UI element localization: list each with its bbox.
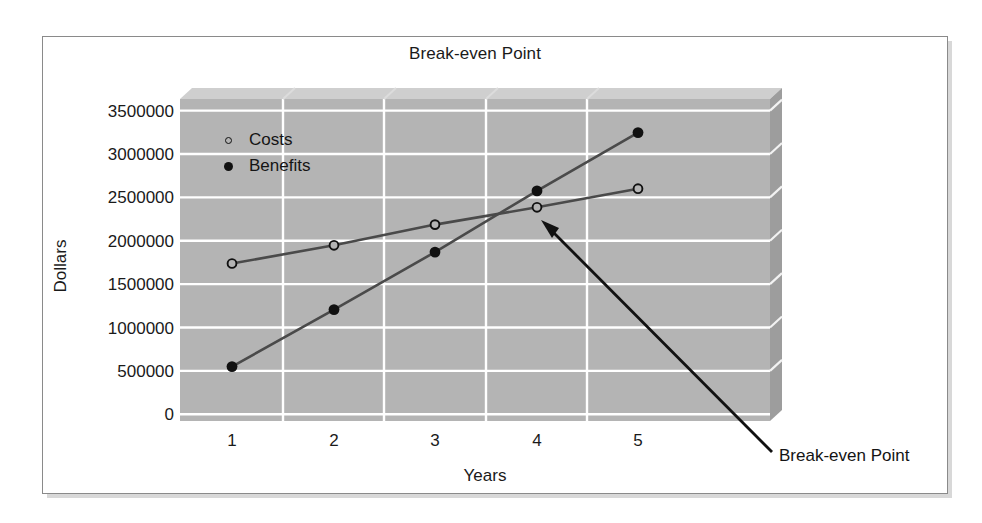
legend-entry-benefits: Benefits — [218, 153, 310, 179]
legend-label-benefits: Benefits — [249, 156, 310, 176]
y-axis-title: Dollars — [51, 196, 71, 336]
filled-circle-icon — [218, 162, 238, 171]
x-tick-label: 2 — [304, 431, 364, 451]
x-tick-label: 5 — [608, 431, 668, 451]
hollow-circle-icon — [218, 137, 238, 144]
x-tick-label: 1 — [202, 431, 262, 451]
x-tick-label: 4 — [507, 431, 567, 451]
legend-entry-costs: Costs — [218, 127, 310, 153]
legend-label-costs: Costs — [249, 130, 292, 150]
chart-legend: Costs Benefits — [218, 127, 310, 179]
x-axis-tick-labels: 1 2 3 4 5 — [0, 0, 982, 523]
x-tick-label: 3 — [405, 431, 465, 451]
breakeven-annotation-label: Break-even Point — [779, 446, 909, 466]
x-axis-title: Years — [400, 466, 570, 486]
screenshot-canvas: 3500000 3000000 2500000 2000000 1500000 … — [0, 0, 982, 523]
chart-title: Break-even Point — [330, 44, 620, 64]
